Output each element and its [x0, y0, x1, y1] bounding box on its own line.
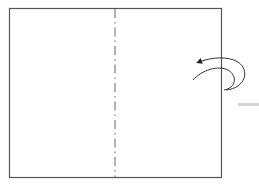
origami-diagram	[0, 0, 259, 186]
side-mark	[238, 103, 259, 106]
